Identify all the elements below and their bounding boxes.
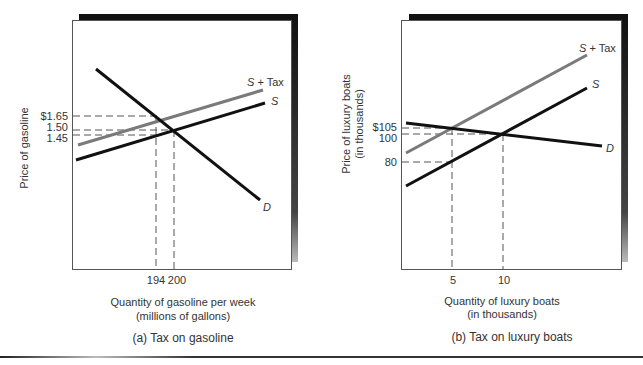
- x-tick-2: 10: [498, 274, 510, 286]
- plot-frame: [73, 21, 292, 270]
- y-axis-label: Price of gasoline: [18, 107, 30, 188]
- tax-incidence-figure: S + Tax S D $1.65 1.50 1.45 194 200 Pric…: [0, 0, 643, 365]
- y-tick-3: 1.45: [47, 132, 68, 144]
- panel-gasoline: S + Tax S D $1.65 1.50 1.45 194 200 Pric…: [18, 14, 298, 345]
- frame-shadow-top: [409, 14, 628, 21]
- panel-title: (a) Tax on gasoline: [132, 331, 234, 345]
- label-d: D: [263, 201, 271, 213]
- x-axis-label: Quantity of luxury boats: [444, 295, 560, 307]
- frame-shadow-right: [291, 14, 298, 262]
- label-s-plus-tax: S + Tax: [579, 42, 616, 54]
- x-tick-1: 5: [450, 274, 456, 286]
- y-axis-label: Price of luxury boats: [340, 74, 352, 174]
- x-axis-sublabel: (millions of gallons): [136, 310, 230, 322]
- x-tick-1: 194: [147, 274, 165, 286]
- y-tick-2: 100: [379, 132, 397, 144]
- x-axis-sublabel: (in thousands): [467, 308, 537, 320]
- panel-title: (b) Tax on luxury boats: [451, 330, 572, 344]
- y-tick-3: 80: [385, 156, 397, 168]
- bottom-rule: [0, 356, 643, 358]
- label-d: D: [606, 142, 614, 154]
- label-s: S: [592, 78, 600, 90]
- frame-shadow-right: [621, 14, 628, 262]
- y-axis-sublabel: (in thousands): [353, 89, 365, 159]
- panel-luxury-boats: S + Tax S D $105 100 80 5 10 Price of lu…: [340, 14, 628, 344]
- x-tick-2: 200: [168, 274, 186, 286]
- x-axis-label: Quantity of gasoline per week: [111, 296, 256, 308]
- label-s: S: [271, 95, 279, 107]
- frame-shadow-top: [79, 14, 298, 21]
- label-s-plus-tax: S + Tax: [247, 76, 284, 88]
